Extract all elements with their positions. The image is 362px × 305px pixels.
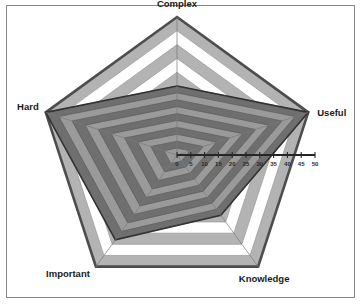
tick-label: 25: [243, 161, 250, 167]
tick-label: 15: [215, 161, 222, 167]
axis-label-important: Important: [46, 268, 91, 279]
radar-chart-screenshot: 05101520253035404550 ComplexUsefulKnowle…: [0, 0, 362, 305]
radar-chart: 05101520253035404550 ComplexUsefulKnowle…: [0, 0, 362, 305]
tick-label: 20: [229, 161, 236, 167]
axis-label-hard: Hard: [17, 101, 39, 112]
tick-label: 45: [298, 161, 305, 167]
tick-label: 10: [201, 161, 208, 167]
tick-label: 30: [256, 161, 263, 167]
tick-label: 35: [270, 161, 277, 167]
tick-label: 50: [312, 161, 319, 167]
axis-label-complex: Complex: [157, 0, 198, 9]
axis-label-knowledge: Knowledge: [239, 273, 290, 284]
axis-label-useful: Useful: [317, 107, 346, 118]
tick-label: 40: [284, 161, 291, 167]
